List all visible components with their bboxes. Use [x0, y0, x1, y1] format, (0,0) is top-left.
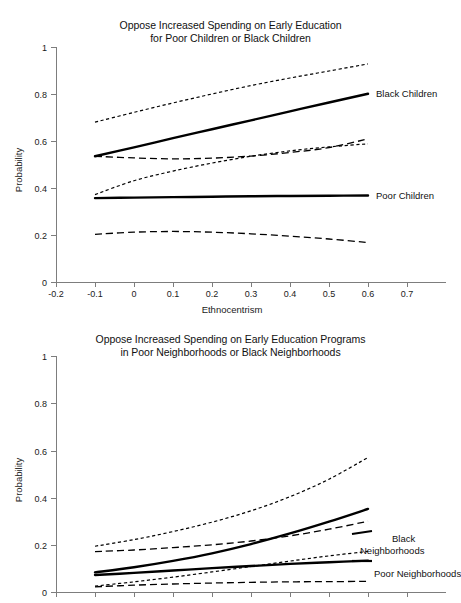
series-label-black-neighborhoods-line-2: Neighborhoods: [360, 545, 425, 556]
y-tick-label: 0.6: [34, 447, 47, 457]
y-tick-label: 0: [42, 278, 47, 288]
series-label-poor-neighborhoods: Poor Neighborhoods: [374, 568, 461, 579]
x-tick-labels-top: -0.2 -0.1 0 0.1 0.2 0.3 0.4 0.5 0.6 0.7: [48, 289, 413, 299]
y-ticks-top: [51, 48, 56, 283]
y-tick-label: 0.8: [34, 90, 47, 100]
curve-poor-children-upper-ci: [95, 139, 368, 159]
x-tick-label: 0.5: [323, 289, 336, 299]
y-tick-label: 0.4: [34, 184, 47, 194]
curve-poor-children: [95, 196, 368, 199]
x-tick-label: -0.1: [87, 289, 103, 299]
y-tick-labels-bottom: 1 0.8 0.6 0.4 0.2 0: [34, 352, 47, 598]
curve-black-neighborhoods-upper-ci: [95, 457, 368, 546]
y-axis-title-top: Probability: [13, 148, 24, 193]
series-label-poor-children: Poor Children: [376, 190, 434, 201]
curve-black-children-upper-ci: [95, 64, 368, 122]
x-tick-label: 0.4: [284, 289, 297, 299]
series-label-black-neighborhoods-line-1: Black: [392, 533, 415, 544]
y-tick-label: 0.2: [34, 541, 47, 551]
chart-panel-top: Oppose Increased Spending on Early Educa…: [0, 0, 461, 320]
series-label-black-children: Black Children: [376, 88, 437, 99]
y-ticks-bottom: [51, 357, 56, 593]
y-tick-label: 0.4: [34, 494, 47, 504]
x-tick-label: 0.3: [245, 289, 258, 299]
x-tick-label: 0.6: [362, 289, 375, 299]
x-tick-label: 0.1: [167, 289, 180, 299]
curve-black-children-lower-ci: [95, 144, 368, 195]
y-tick-label: 0.6: [34, 137, 47, 147]
x-tick-label: 0.2: [206, 289, 219, 299]
y-tick-label: 0.8: [34, 399, 47, 409]
curves-group-top: [95, 64, 368, 243]
y-tick-label: 0: [42, 588, 47, 598]
figure-page: Oppose Increased Spending on Early Educa…: [0, 0, 461, 603]
x-tick-label: -0.2: [48, 289, 64, 299]
y-axis-title-bottom: Probability: [13, 458, 24, 503]
curves-group-bottom: [95, 457, 368, 586]
y-tick-labels-top: 1 0.8 0.6 0.4 0.2 0: [34, 43, 47, 288]
x-axis-title-top: Ethnocentrism: [202, 304, 263, 315]
y-tick-label: 0.2: [34, 231, 47, 241]
curve-poor-neighborhoods-upper-ci: [95, 551, 368, 586]
curve-poor-children-lower-ci: [95, 231, 368, 242]
leader-black-neighborhoods: [352, 531, 372, 534]
chart-panel-bottom: Oppose Increased Spending on Early Educa…: [0, 320, 461, 603]
y-tick-label: 1: [42, 352, 47, 362]
curve-black-neighborhoods-lower-ci: [95, 521, 368, 551]
y-tick-label: 1: [42, 43, 47, 53]
plot-area-top: 1 0.8 0.6 0.4 0.2 0 Probability: [0, 0, 461, 320]
plot-area-bottom: 1 0.8 0.6 0.4 0.2 0 Probability: [0, 320, 461, 603]
x-tick-label: 0: [131, 289, 136, 299]
x-tick-label: 0.7: [401, 289, 414, 299]
curve-black-children: [95, 94, 368, 157]
